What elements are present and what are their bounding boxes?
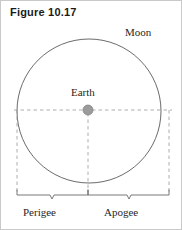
moon-label: Moon bbox=[125, 26, 151, 38]
perigee-label: Perigee bbox=[23, 206, 56, 218]
earth-marker-icon bbox=[83, 105, 93, 115]
earth-label: Earth bbox=[71, 86, 95, 98]
orbit-diagram bbox=[1, 1, 182, 230]
apogee-brace bbox=[88, 190, 169, 199]
figure-panel: Figure 10.17 Moon Earth Perigee Apogee bbox=[0, 0, 182, 230]
perigee-brace bbox=[17, 190, 88, 199]
apogee-label: Apogee bbox=[104, 206, 138, 218]
